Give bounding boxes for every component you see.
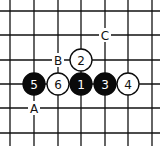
white-stone-4: 4 <box>117 73 139 95</box>
stone-number: 6 <box>54 78 62 92</box>
black-stone-1: 1 <box>70 73 92 95</box>
black-stone-3: 3 <box>94 73 116 95</box>
stone-number: 1 <box>77 78 85 92</box>
stone-number: 3 <box>101 78 109 92</box>
marker-label-c: C <box>101 29 109 43</box>
stone-number: 4 <box>124 78 132 92</box>
white-stone-6: 6 <box>47 73 69 95</box>
marker-label-a: A <box>30 102 39 116</box>
go-board: ABC 123456 <box>0 0 163 148</box>
black-stone-5: 5 <box>23 73 45 95</box>
point-markers: ABC <box>28 28 111 116</box>
stone-number: 5 <box>30 78 38 92</box>
marker-label-b: B <box>54 54 62 68</box>
stone-number: 2 <box>77 54 85 68</box>
white-stone-2: 2 <box>70 49 92 71</box>
